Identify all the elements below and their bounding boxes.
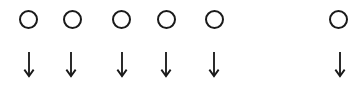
circle-icon bbox=[112, 10, 131, 29]
arrow-down-icon bbox=[207, 52, 221, 78]
circle-icon bbox=[205, 10, 224, 29]
arrow-down-icon bbox=[159, 52, 173, 78]
circle-icon bbox=[157, 10, 176, 29]
arrow-down-icon bbox=[115, 52, 129, 78]
arrow-down-icon bbox=[22, 52, 36, 78]
arrow-down-icon bbox=[64, 52, 78, 78]
circle-icon bbox=[329, 10, 348, 29]
circle-icon bbox=[63, 10, 82, 29]
circle-icon bbox=[19, 10, 38, 29]
arrow-down-icon bbox=[333, 52, 347, 78]
